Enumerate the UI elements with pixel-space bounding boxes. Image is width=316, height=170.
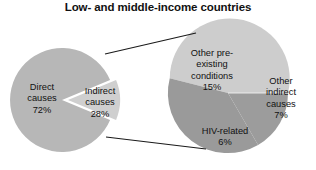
label-direct-value: 72% — [14, 105, 70, 116]
label-hiv-line1: HIV-related — [186, 126, 264, 137]
label-indirect-causes: Indirect causes 28% — [72, 86, 128, 120]
label-otherind-value: 7% — [252, 110, 310, 121]
label-indirect-line2: causes — [72, 97, 128, 108]
label-indirect-line1: Indirect — [72, 86, 128, 97]
figure-container: Low- and middle-income countries Dir — [0, 0, 316, 170]
label-otherpre-line1: Other pre- — [176, 48, 248, 59]
label-hiv-value: 6% — [186, 137, 264, 148]
label-other-pre-existing-conditions: Other pre- existing conditions 15% — [176, 48, 248, 94]
label-direct-line2: causes — [14, 93, 70, 104]
label-indirect-value: 28% — [72, 109, 128, 120]
label-otherpre-line2: existing — [176, 59, 248, 70]
label-otherpre-line3: conditions — [176, 71, 248, 82]
label-direct-causes: Direct causes 72% — [14, 82, 70, 116]
label-other-indirect-causes: Other indirect causes 7% — [252, 76, 310, 122]
label-otherind-line3: causes — [252, 99, 310, 110]
label-otherind-line1: Other — [252, 76, 310, 87]
label-otherpre-value: 15% — [176, 82, 248, 93]
label-otherind-line2: indirect — [252, 87, 310, 98]
label-direct-line1: Direct — [14, 82, 70, 93]
label-hiv-related: HIV-related 6% — [186, 126, 264, 149]
